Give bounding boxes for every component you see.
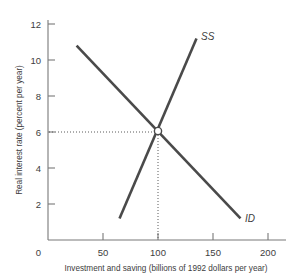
chart-figure: 12 10 8 6 4 2 0 50 100 150 200 Investmen…	[0, 0, 299, 278]
saving-supply-label: SS	[201, 31, 215, 42]
x-tick-label-50: 50	[98, 247, 109, 258]
x-tick-label-100: 100	[150, 247, 166, 258]
y-tick-label-4: 4	[36, 163, 41, 174]
y-tick-label-12: 12	[30, 19, 41, 30]
y-tick-label-0: 0	[36, 247, 41, 258]
y-axis-title: Real interest rate (percent per year)	[15, 65, 24, 195]
y-tick-label-6: 6	[36, 127, 41, 138]
x-tick-label-200: 200	[260, 247, 276, 258]
chart-svg: 12 10 8 6 4 2 0 50 100 150 200 Investmen…	[0, 0, 299, 278]
equilibrium-point-marker	[154, 127, 161, 134]
x-tick-label-150: 150	[205, 247, 221, 258]
y-tick-label-2: 2	[36, 199, 41, 210]
y-tick-label-8: 8	[36, 91, 41, 102]
x-axis-title: Investment and saving (billions of 1992 …	[65, 264, 268, 273]
y-tick-label-10: 10	[30, 55, 41, 66]
investment-demand-label: ID	[245, 213, 255, 224]
